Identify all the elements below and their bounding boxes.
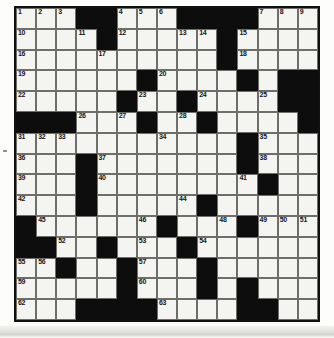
- grid-cell[interactable]: [117, 133, 137, 154]
- grid-cell[interactable]: [117, 174, 137, 195]
- grid-cell[interactable]: [217, 91, 237, 112]
- grid-cell[interactable]: [217, 112, 237, 133]
- grid-cell[interactable]: [117, 50, 137, 71]
- grid-cell[interactable]: 52: [56, 237, 76, 258]
- grid-cell[interactable]: 22: [16, 91, 36, 112]
- grid-cell[interactable]: [177, 216, 197, 237]
- grid-cell[interactable]: [258, 112, 278, 133]
- grid-cell[interactable]: 53: [137, 237, 157, 258]
- grid-cell[interactable]: [76, 133, 96, 154]
- grid-cell[interactable]: [76, 237, 96, 258]
- grid-cell[interactable]: [56, 154, 76, 175]
- grid-cell[interactable]: [177, 258, 197, 279]
- grid-cell[interactable]: [157, 237, 177, 258]
- grid-cell[interactable]: 49: [258, 216, 278, 237]
- grid-cell[interactable]: [56, 216, 76, 237]
- grid-cell[interactable]: [298, 299, 318, 320]
- grid-cell[interactable]: [237, 91, 257, 112]
- grid-cell[interactable]: [97, 133, 117, 154]
- grid-cell[interactable]: 27: [117, 112, 137, 133]
- grid-cell[interactable]: 45: [36, 216, 56, 237]
- grid-cell[interactable]: 37: [97, 154, 117, 175]
- grid-cell[interactable]: [56, 70, 76, 91]
- crossword-puzzle[interactable]: 1234567891011121314151617181920222324252…: [14, 6, 320, 322]
- grid-cell[interactable]: [237, 237, 257, 258]
- grid-cell[interactable]: [76, 258, 96, 279]
- grid-cell[interactable]: [117, 70, 137, 91]
- grid-cell[interactable]: [97, 195, 117, 216]
- grid-cell[interactable]: [157, 29, 177, 50]
- grid-cell[interactable]: [36, 299, 56, 320]
- grid-cell[interactable]: [36, 195, 56, 216]
- grid-cell[interactable]: 31: [16, 133, 36, 154]
- grid-cell[interactable]: [177, 154, 197, 175]
- grid-cell[interactable]: [56, 195, 76, 216]
- grid-cell[interactable]: 18: [237, 50, 257, 71]
- grid-cell[interactable]: [97, 278, 117, 299]
- grid-cell[interactable]: [157, 174, 177, 195]
- grid-cell[interactable]: 1: [16, 8, 36, 29]
- grid-cell[interactable]: [117, 237, 137, 258]
- grid-cell[interactable]: [278, 112, 298, 133]
- grid-cell[interactable]: 3: [56, 8, 76, 29]
- grid-cell[interactable]: [157, 91, 177, 112]
- grid-cell[interactable]: 26: [76, 112, 96, 133]
- grid-cell[interactable]: [217, 133, 237, 154]
- grid-cell[interactable]: [177, 278, 197, 299]
- grid-cell[interactable]: [137, 195, 157, 216]
- grid-cell[interactable]: 9: [298, 8, 318, 29]
- grid-cell[interactable]: [298, 195, 318, 216]
- grid-cell[interactable]: 39: [16, 174, 36, 195]
- grid-cell[interactable]: [177, 299, 197, 320]
- grid-cell[interactable]: 59: [16, 278, 36, 299]
- grid-cell[interactable]: [298, 154, 318, 175]
- grid-cell[interactable]: 25: [258, 91, 278, 112]
- grid-cell[interactable]: [117, 154, 137, 175]
- grid-cell[interactable]: 63: [157, 299, 177, 320]
- grid-cell[interactable]: [56, 278, 76, 299]
- grid-cell[interactable]: [177, 174, 197, 195]
- grid-cell[interactable]: [137, 174, 157, 195]
- grid-cell[interactable]: 56: [36, 258, 56, 279]
- grid-cell[interactable]: [117, 216, 137, 237]
- grid-cell[interactable]: 36: [16, 154, 36, 175]
- grid-cell[interactable]: 20: [157, 70, 177, 91]
- grid-cell[interactable]: 12: [117, 29, 137, 50]
- grid-cell[interactable]: [157, 112, 177, 133]
- grid-cell[interactable]: 40: [97, 174, 117, 195]
- grid-cell[interactable]: [278, 237, 298, 258]
- grid-cell[interactable]: 57: [137, 258, 157, 279]
- grid-cell[interactable]: [217, 195, 237, 216]
- grid-cell[interactable]: [36, 29, 56, 50]
- grid-cell[interactable]: 19: [16, 70, 36, 91]
- grid-cell[interactable]: [36, 50, 56, 71]
- grid-cell[interactable]: [217, 70, 237, 91]
- crossword-grid[interactable]: 1234567891011121314151617181920222324252…: [14, 6, 320, 322]
- grid-cell[interactable]: [237, 195, 257, 216]
- grid-cell[interactable]: [197, 133, 217, 154]
- grid-cell[interactable]: [258, 278, 278, 299]
- grid-cell[interactable]: 13: [177, 29, 197, 50]
- grid-cell[interactable]: [197, 50, 217, 71]
- grid-cell[interactable]: 34: [157, 133, 177, 154]
- grid-cell[interactable]: 4: [117, 8, 137, 29]
- grid-cell[interactable]: 24: [197, 91, 217, 112]
- grid-cell[interactable]: 42: [16, 195, 36, 216]
- grid-cell[interactable]: [298, 174, 318, 195]
- grid-cell[interactable]: [76, 91, 96, 112]
- grid-cell[interactable]: [278, 133, 298, 154]
- grid-cell[interactable]: [197, 299, 217, 320]
- grid-cell[interactable]: [137, 29, 157, 50]
- grid-cell[interactable]: [197, 174, 217, 195]
- grid-cell[interactable]: 2: [36, 8, 56, 29]
- grid-cell[interactable]: [157, 278, 177, 299]
- grid-cell[interactable]: [76, 70, 96, 91]
- grid-cell[interactable]: [298, 237, 318, 258]
- grid-cell[interactable]: 41: [237, 174, 257, 195]
- grid-cell[interactable]: [298, 258, 318, 279]
- grid-cell[interactable]: 48: [217, 216, 237, 237]
- grid-cell[interactable]: [278, 154, 298, 175]
- grid-cell[interactable]: 17: [97, 50, 117, 71]
- grid-cell[interactable]: [298, 50, 318, 71]
- grid-cell[interactable]: [258, 50, 278, 71]
